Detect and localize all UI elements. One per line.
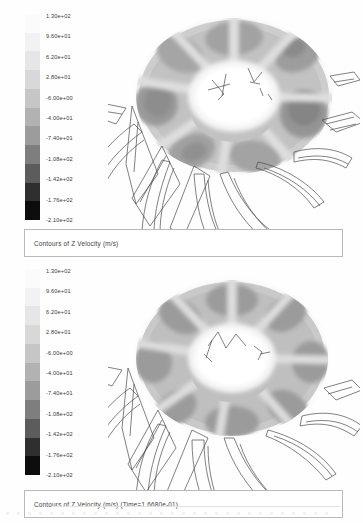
colorbar-tick-label: -7.40e+01 [46,135,73,142]
colorbar-tick-label: 1.30e+02 [46,13,71,20]
colorbar-band [25,183,40,202]
contour-plot-bottom [108,262,360,494]
scan-artifact-line [52,506,340,507]
colorbar-tick-label: -7.40e+01 [46,390,73,397]
colorbar-tick-label: 2.80e+01 [46,74,71,81]
contour-plot-top [108,2,360,234]
colorbar-tick-label: 6.20e+01 [46,308,71,315]
colorbar-tick-label: -1.76e+02 [46,451,73,458]
figure-panel-top: 1.30e+02 9.60e+01 6.20e+01 2.80e+01 -6.0… [0,0,363,262]
colorbar-band [25,381,40,400]
colorbar-band [25,126,40,145]
colorbar-tick-label: -6.00e+00 [46,349,73,356]
colorbar-band [25,201,40,220]
figure-page: 1.30e+02 9.60e+01 6.20e+01 2.80e+01 -6.0… [0,0,363,523]
scan-artifact-dots [6,512,336,515]
colorbar-band [25,51,40,70]
colorbar-strip-bottom [25,269,40,475]
colorbar-band [25,438,40,457]
caption-text-top: Contours of Z Velocity (m/s) [34,239,118,248]
contour-hub [188,60,280,132]
colorbar-tick-label: 9.60e+01 [46,288,71,295]
contour-hub [188,323,276,393]
colorbar-tick-label: -4.00e+01 [46,115,73,122]
colorbar-legend-top: 1.30e+02 9.60e+01 6.20e+01 2.80e+01 -6.0… [25,14,120,220]
colorbar-band [25,288,40,307]
colorbar-tick-label: -1.42e+02 [46,431,73,438]
colorbar-tick-label: 2.80e+01 [46,329,71,336]
colorbar-band [25,108,40,127]
colorbar-band [25,164,40,183]
colorbar-strip-top [25,14,40,220]
colorbar-band [25,145,40,164]
colorbar-band [25,400,40,419]
colorbar-band [25,269,40,288]
colorbar-tick-label: -1.08e+02 [46,155,73,162]
colorbar-band [25,70,40,89]
colorbar-tick-label: -4.00e+01 [46,370,73,377]
colorbar-tick-label: -1.76e+02 [46,196,73,203]
colorbar-band [25,89,40,108]
colorbar-legend-bottom: 1.30e+02 9.60e+01 6.20e+01 2.80e+01 -6.0… [25,269,120,475]
colorbar-band [25,14,40,33]
colorbar-band [25,306,40,325]
colorbar-band [25,344,40,363]
colorbar-tick-label: -1.42e+02 [46,176,73,183]
colorbar-band [25,363,40,382]
colorbar-tick-label: 9.60e+01 [46,33,71,40]
colorbar-tick-label: -2.10e+02 [46,472,73,479]
colorbar-band [25,419,40,438]
colorbar-tick-label: -1.08e+02 [46,410,73,417]
colorbar-tick-label: 1.30e+02 [46,268,71,275]
colorbar-tick-label: -2.10e+02 [46,217,73,224]
caption-text-bottom: Contours of Z Velocity (m/s) (Time=1.668… [34,500,178,509]
colorbar-tick-label: -6.00e+00 [46,94,73,101]
colorbar-band [25,456,40,475]
caption-box-top: Contours of Z Velocity (m/s) [24,229,343,257]
colorbar-band [25,33,40,52]
colorbar-band [25,325,40,344]
figure-panel-bottom: 1.30e+02 9.60e+01 6.20e+01 2.80e+01 -6.0… [0,258,363,523]
colorbar-tick-label: 6.20e+01 [46,53,71,60]
